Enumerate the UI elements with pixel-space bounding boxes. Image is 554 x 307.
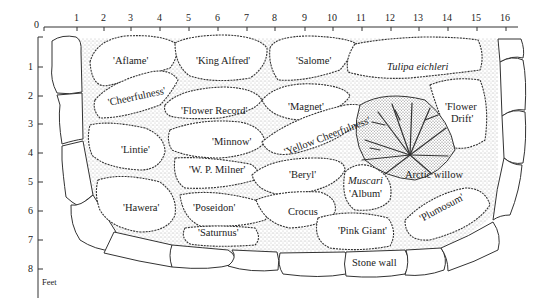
label-hawera: 'Hawera' [123, 203, 159, 214]
x-tick-1: 1 [74, 13, 79, 23]
label-aflame: 'Aflame' [113, 56, 148, 67]
x-tick-7: 7 [244, 13, 249, 23]
label-stone-wall: Stone wall [352, 258, 397, 269]
label-album: 'Album' [349, 189, 382, 200]
label-flower-drift-2: Drift' [451, 114, 473, 125]
label-lintie: 'Lintie' [121, 145, 150, 156]
x-tick-11: 11 [356, 13, 366, 23]
label-minnow: 'Minnow' [212, 137, 251, 148]
garden-plan-svg [0, 0, 554, 307]
y-tick-6: 6 [28, 206, 33, 216]
x-tick-12: 12 [385, 13, 395, 23]
x-tick-0: 0 [34, 20, 39, 30]
x-tick-4: 4 [157, 13, 162, 23]
x-tick-3: 3 [128, 13, 133, 23]
x-tick-8: 8 [272, 13, 277, 23]
y-tick-2: 2 [28, 91, 33, 101]
y-tick-8: 8 [28, 264, 33, 274]
garden-plan-diagram: 0 1 2 3 4 5 6 7 8 9 10 11 12 13 14 15 16… [0, 0, 554, 307]
label-crocus: Crocus [288, 207, 318, 218]
x-tick-16: 16 [500, 13, 510, 23]
y-tick-5: 5 [28, 177, 33, 187]
label-flower-record: 'Flower Record' [181, 106, 247, 117]
label-salome: 'Salome' [296, 56, 331, 67]
label-arctic-willow: Arctic willow [405, 170, 463, 181]
x-tick-14: 14 [442, 13, 452, 23]
y-axis [38, 37, 43, 298]
x-tick-6: 6 [215, 13, 220, 23]
x-tick-5: 5 [186, 13, 191, 23]
x-tick-10: 10 [327, 13, 337, 23]
y-tick-7: 7 [28, 235, 33, 245]
x-tick-2: 2 [101, 13, 106, 23]
x-tick-13: 13 [413, 13, 423, 23]
label-king-alfred: 'King Alfred' [196, 56, 250, 67]
label-w-p-milner: 'W. P. Milner' [189, 165, 245, 176]
x-tick-9: 9 [302, 13, 307, 23]
label-magnet: 'Magnet' [288, 102, 324, 113]
label-saturnus: 'Saturnus' [198, 228, 239, 239]
label-poseidon: 'Poseidon' [193, 203, 235, 214]
label-tulipa-eichleri: Tulipa eichleri [387, 62, 449, 73]
x-axis [44, 27, 518, 31]
label-muscari: Muscari [348, 176, 383, 187]
y-tick-1: 1 [28, 62, 33, 72]
y-tick-3: 3 [28, 119, 33, 129]
label-beryl: 'Beryl' [289, 170, 316, 181]
label-flower-drift-1: 'Flower [445, 102, 477, 113]
x-tick-15: 15 [471, 13, 481, 23]
units-label: Feet [42, 278, 57, 287]
label-pink-giant: 'Pink Giant' [338, 226, 387, 237]
y-tick-4: 4 [28, 148, 33, 158]
